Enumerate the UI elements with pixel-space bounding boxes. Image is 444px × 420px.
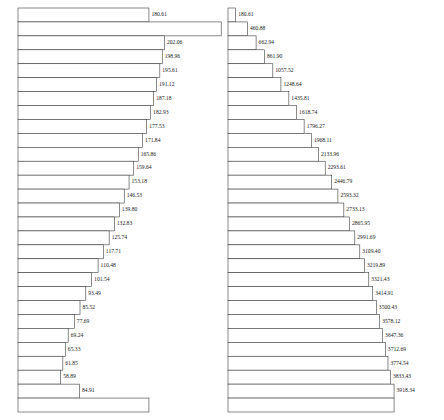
bar-value-label: 1057.52 [275, 67, 293, 73]
bar-segment [228, 78, 281, 92]
bar-value-label: 460.88 [250, 25, 266, 31]
bar-segment [228, 147, 318, 161]
bar-segment [18, 203, 119, 217]
bar-segment [18, 133, 143, 147]
bar-value-label: 3712.69 [388, 346, 406, 352]
bar-segment [228, 384, 394, 398]
bar-value-label: 171.84 [145, 137, 161, 143]
bar-value-label: 195.61 [162, 67, 178, 73]
bar-segment [18, 64, 160, 78]
bar-segment [18, 273, 92, 287]
bar-value-label: 101.54 [94, 276, 110, 282]
bar-value-label: 177.53 [149, 123, 165, 129]
bar-segment [228, 161, 325, 175]
bar-segment [18, 119, 147, 133]
bar-segment [18, 50, 162, 64]
bar-segment [228, 92, 289, 106]
bar-segment [228, 245, 360, 259]
bar-value-label: 2991.69 [357, 234, 375, 240]
bar-value-label: 1968.11 [314, 137, 332, 143]
bar-segment [228, 22, 248, 36]
bar-value-label: 198.96 [165, 53, 181, 59]
bar-value-label: 153.18 [132, 178, 148, 184]
bar-value-label: 191.12 [159, 81, 175, 87]
bar-value-label: 1618.74 [299, 109, 317, 115]
bar-segment [228, 64, 273, 78]
bar-segment [18, 147, 138, 161]
bar-value-label: 65.33 [68, 346, 81, 352]
bar-value-label: 3219.89 [367, 262, 385, 268]
bar-segment [228, 203, 344, 217]
bar-value-label: 180.61 [151, 11, 167, 17]
bar-segment [228, 36, 256, 50]
bar-value-label: 117.71 [106, 248, 121, 254]
figure-container: 180.61280.27202.06198.96195.61191.12187.… [0, 0, 444, 420]
bar-value-label: 861.90 [267, 53, 283, 59]
bar-value-label: 139.80 [122, 206, 138, 212]
bar-segment [18, 384, 80, 398]
bar-segment [18, 245, 103, 259]
bar-value-label: 2293.61 [328, 164, 346, 170]
bar-segment [18, 259, 98, 273]
bar-value-label: 182.93 [153, 109, 169, 115]
bar-segment [18, 78, 157, 92]
bar-value-label: 3774.54 [390, 360, 408, 366]
bar-segment [18, 342, 65, 356]
bar-segment [18, 175, 129, 189]
bar-value-label: 84.91 [82, 387, 95, 393]
bar-value-label: 3321.43 [371, 276, 389, 282]
bar-segment [228, 231, 355, 245]
bar-segment [228, 133, 311, 147]
bar-value-label: 3647.36 [385, 332, 403, 338]
bar-segment [228, 106, 297, 120]
bar-value-label: 85.52 [83, 304, 96, 310]
bar-value-label: 1796.27 [307, 123, 325, 129]
bar-value-label: 3833.43 [393, 373, 411, 379]
bar-segment [18, 8, 149, 22]
bar-value-label: 165.86 [141, 151, 157, 157]
bar-value-label: 61.85 [65, 360, 78, 366]
bar-segment [228, 119, 304, 133]
bar-value-label: 187.18 [156, 95, 172, 101]
bar-segment [18, 92, 154, 106]
bar-value-label: 2133.96 [321, 151, 339, 157]
bar-value-label: 77.69 [77, 318, 90, 324]
bar-value-label: 3500.43 [379, 304, 397, 310]
bar-value-label: 93.49 [88, 290, 101, 296]
bar-value-label: 125.74 [112, 234, 128, 240]
cumulative-bar-panel: 180.61460.88662.94861.901057.521248.6414… [222, 0, 444, 420]
bar-value-label: 1248.64 [283, 81, 301, 87]
bar-segment [228, 301, 376, 315]
bar-segment [228, 314, 380, 328]
bar-value-label: 180.61 [238, 11, 254, 17]
bar-segment [18, 22, 221, 36]
bar-segment [228, 217, 349, 231]
bar-segment [228, 8, 236, 22]
bar-segment [228, 273, 369, 287]
bar-segment [18, 217, 114, 231]
bar-segment [18, 161, 134, 175]
bar-value-label: 2865.95 [352, 220, 370, 226]
bar-value-label: 1435.81 [291, 95, 309, 101]
bar-value-label: 132.83 [117, 220, 133, 226]
bar-segment [18, 328, 68, 342]
bar-value-label: 146.53 [127, 192, 143, 198]
bar-segment [18, 370, 61, 384]
bar-segment [228, 259, 364, 273]
bar-segment [228, 342, 385, 356]
bar-segment [228, 370, 390, 384]
bar-value-label: 3578.12 [382, 318, 400, 324]
bar-segment [18, 287, 86, 301]
bar-value-label: 159.64 [136, 164, 152, 170]
bar-segment [18, 36, 164, 50]
bar-value-label: 2593.32 [340, 192, 358, 198]
bar-value-label: 2446.79 [334, 178, 352, 184]
bar-value-label: 3414.91 [375, 290, 393, 296]
bar-segment [18, 106, 151, 120]
bar-segment [228, 356, 388, 370]
bar-segment [18, 356, 63, 370]
bar-segment [18, 314, 74, 328]
bar-value-label: 2733.13 [346, 206, 364, 212]
bar-segment [228, 398, 394, 412]
bar-segment [18, 231, 109, 245]
